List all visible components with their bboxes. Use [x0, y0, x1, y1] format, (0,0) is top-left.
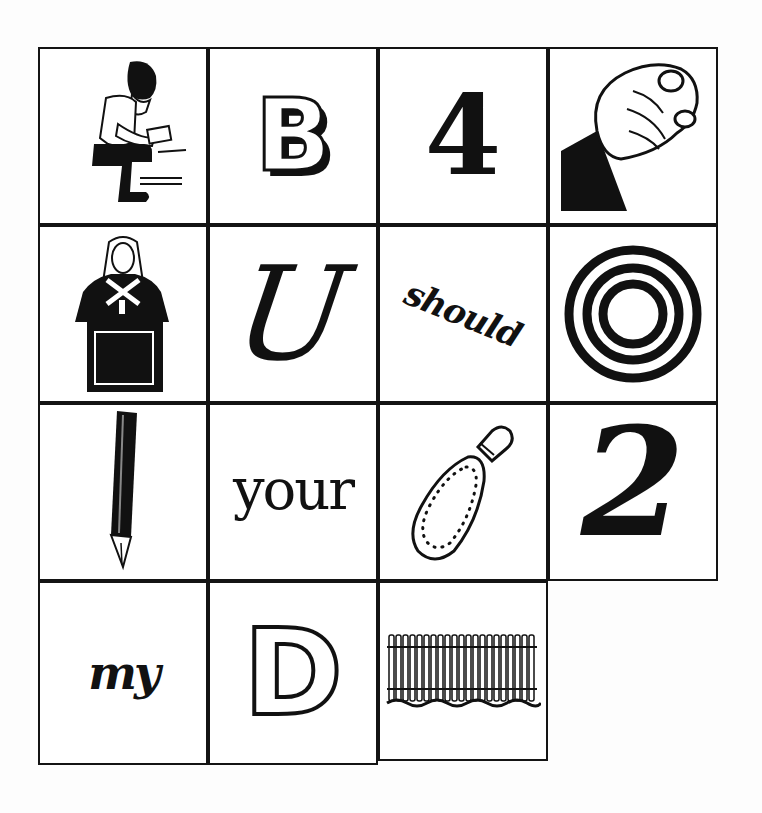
cell-r3c4: 2 [548, 403, 718, 581]
cell-r2c2: U [208, 225, 378, 403]
fist-icon [553, 51, 713, 221]
cell-r4c2: D [208, 581, 378, 765]
cell-r1c4 [548, 47, 718, 225]
boy-sitting-reading-icon [58, 54, 188, 219]
word-my: my [88, 650, 157, 696]
picket-fence-icon [385, 631, 541, 711]
fountain-pen-icon [93, 407, 153, 577]
word-should: should [400, 275, 526, 352]
cell-r4c1: my [38, 581, 208, 765]
cell-r3c2: your [208, 403, 378, 581]
letter-b: B [255, 86, 331, 186]
cell-r4c3 [378, 581, 548, 761]
concentric-rings-icon [558, 239, 708, 389]
cell-r1c2: B [208, 47, 378, 225]
cell-r2c3: should [378, 225, 548, 403]
letter-d: D [243, 613, 343, 733]
cell-r1c1 [38, 47, 208, 225]
cell-r3c1 [38, 403, 208, 581]
numeral-4: 4 [425, 81, 502, 191]
judge-at-bench-icon [63, 232, 183, 397]
word-your: your [233, 462, 353, 518]
cell-r3c3 [378, 403, 548, 581]
cell-r1c3: 4 [378, 47, 548, 225]
cell-r2c4 [548, 225, 718, 403]
cell-r2c1 [38, 225, 208, 403]
letter-u: U [229, 249, 357, 379]
numeral-2: 2 [581, 407, 685, 557]
shoe-sole-icon [398, 417, 528, 567]
